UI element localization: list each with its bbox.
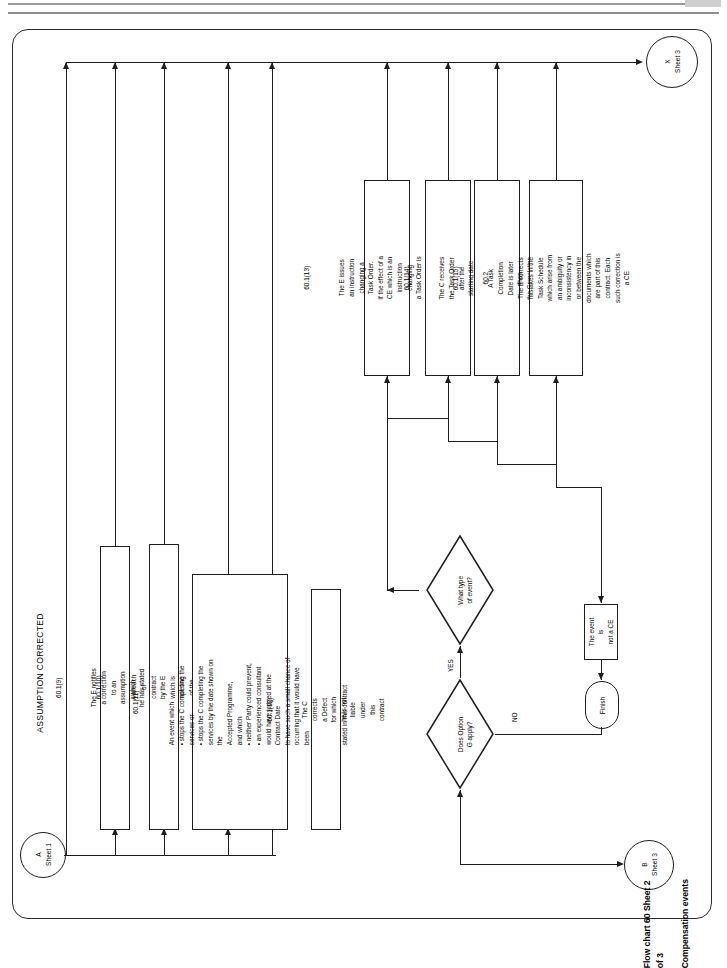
- box-clause-60-1-12[interactable]: 60.1(12) The C corrects a Defect for whi…: [311, 589, 341, 830]
- decision-option-g-label: Does Option G apply?: [456, 716, 473, 752]
- riser-clause-60-1-11: [228, 62, 229, 574]
- feed-60-1-15: [497, 376, 498, 464]
- riser-60-1-11-arrowhead: [225, 62, 231, 69]
- b-connector-feed-arrowhead: [617, 861, 624, 867]
- decision-what-type-of-event[interactable]: What type of event?: [425, 534, 495, 646]
- riser-60-1-10-arrowhead: [161, 62, 167, 69]
- connector-a-sheet1[interactable]: A Sheet 1: [20, 832, 66, 878]
- riser-clause-60-2: [556, 62, 557, 180]
- b-connector-feed: [460, 864, 620, 865]
- riser-clause-60-1-12: [272, 62, 273, 589]
- label-yes-text: YES: [447, 659, 454, 672]
- diamond-event-riser: [387, 418, 388, 590]
- ref-60-1-15: 60.1(15): [450, 256, 460, 300]
- chart-title-line2: Compensation events: [678, 872, 690, 968]
- page-top-rule-lower: [8, 12, 719, 14]
- drop-to-not-a-ce-arrowhead: [598, 596, 604, 603]
- feed-60-1-15-arrowhead: [494, 376, 500, 383]
- connector-a-id: A: [34, 853, 41, 857]
- text-event-not-a-ce: The event is not a CE: [587, 616, 616, 648]
- riser-60-1-13-arrowhead: [384, 62, 390, 69]
- fanout-602-ce-tail: [556, 487, 602, 488]
- connector-x-sheet3[interactable]: X Sheet 3: [646, 36, 698, 88]
- riser-60-1-15-arrowhead: [494, 62, 500, 69]
- ref-60-1-12: 60.1(12): [265, 696, 275, 724]
- top-bus-arrowhead: [636, 59, 643, 65]
- label-no-text: NO: [511, 712, 518, 722]
- feed-60-1-13-arrowhead: [384, 376, 390, 383]
- decision-does-option-g-apply[interactable]: Does Option G apply?: [425, 678, 495, 790]
- feed-60-1-14: [448, 376, 449, 441]
- riser-clause-60-1-14: [448, 62, 449, 180]
- text-60-1-12: The C corrects a Defect for which he is …: [301, 696, 387, 724]
- riser-60-1-12-arrowhead: [269, 62, 275, 69]
- box-clause-60-2[interactable]: 60.2 The E corrects mistakes in the Task…: [529, 180, 583, 376]
- ref-60-2: 60.2: [480, 252, 490, 304]
- riser-60-1-9-arrowhead: [112, 62, 118, 69]
- a-connector-bus: [64, 855, 276, 856]
- label-no: NO: [500, 704, 522, 726]
- header-assumption-corrected: ASSUMPTION CORRECTED: [25, 545, 45, 795]
- connector-x-sheet: Sheet 3: [673, 51, 680, 74]
- chart-title: Flow chart 60 Sheet 2 of 3 Compensation …: [636, 845, 696, 941]
- ref-60-1-9: 60.1(9): [54, 668, 64, 708]
- page-top-rule-upper: [8, 3, 719, 5]
- riser-a-arrowhead: [63, 62, 69, 69]
- riser-clause-60-1-15: [497, 62, 498, 180]
- page-corner-mark: [685, 0, 721, 7]
- text-60-2: The E corrects mistakes in the Task Sche…: [516, 252, 631, 304]
- ref-60-1-11: 60.1(11): [130, 655, 140, 749]
- feed-60-2: [556, 376, 557, 487]
- box-event-not-a-ce[interactable]: The event is not a CE: [584, 604, 618, 660]
- terminal-finish[interactable]: Finish: [585, 681, 619, 729]
- not-a-ce-to-finish-arrowhead: [598, 673, 604, 680]
- chart-title-line1: Flow chart 60 Sheet 2 of 3: [641, 872, 666, 968]
- terminal-finish-label: Finish: [599, 696, 606, 714]
- fanout-13-14: [387, 418, 449, 419]
- decision-event-type-label: What type of event?: [456, 576, 473, 605]
- fanout-14-15: [448, 441, 498, 442]
- riser-60-1-14-arrowhead: [445, 62, 451, 69]
- riser-a-connector: [66, 62, 67, 855]
- branch-no-join: [601, 727, 602, 735]
- drop-to-not-a-ce: [601, 487, 602, 603]
- feed-60-2-arrowhead: [553, 376, 559, 383]
- riser-clause-60-1-10: [164, 62, 165, 544]
- fanout-15-602: [497, 464, 557, 465]
- connector-x-id: X: [663, 60, 670, 64]
- a-bus-tail: [272, 855, 276, 856]
- ref-60-1-14: 60.1(14): [401, 256, 411, 300]
- label-yes: YES: [436, 652, 458, 678]
- entry-to-option-g: [460, 790, 461, 864]
- feed-60-1-14-arrowhead: [445, 376, 451, 383]
- riser-clause-60-1-9: [115, 62, 116, 546]
- riser-clause-60-1-13: [387, 62, 388, 180]
- branch-no-line: [495, 734, 601, 735]
- ref-60-1-10: 60.1(10): [93, 673, 103, 701]
- diamond-event-exit-arrowhead: [387, 587, 394, 593]
- ref-60-1-13: 60.1(13): [302, 256, 312, 300]
- entry-to-option-g-arrowhead: [457, 790, 463, 797]
- riser-60-2-arrowhead: [553, 62, 559, 69]
- connector-a-sheet: Sheet 1: [44, 844, 51, 867]
